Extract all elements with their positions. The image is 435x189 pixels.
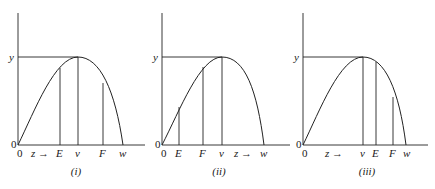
origin-label: 0 bbox=[17, 147, 23, 159]
y-label: y bbox=[293, 51, 299, 63]
caption-i: (i) bbox=[71, 165, 82, 178]
label-w: w bbox=[403, 147, 411, 159]
y-label: y bbox=[152, 51, 158, 63]
label-F: F bbox=[388, 147, 396, 159]
panel-iii: y 0 0 z → v E F w (iii) bbox=[293, 13, 428, 178]
three-panel-diagram: y 0 0 z → E v F w (i) y 0 0 E F v z → w … bbox=[0, 0, 435, 189]
curve bbox=[303, 57, 406, 145]
label-E: E bbox=[371, 147, 379, 159]
label-v: v bbox=[75, 147, 80, 159]
y-label: y bbox=[8, 51, 14, 63]
caption-ii: (ii) bbox=[212, 165, 226, 178]
label-E: E bbox=[55, 147, 63, 159]
label-w: w bbox=[260, 147, 268, 159]
z-arrow-label: z → bbox=[233, 147, 252, 159]
label-v: v bbox=[360, 147, 365, 159]
origin-label: 0 bbox=[161, 147, 167, 159]
z-arrow-label: z → bbox=[30, 147, 49, 159]
z-arrow-label: z → bbox=[324, 147, 343, 159]
caption-iii: (iii) bbox=[359, 165, 376, 178]
panel-ii: y 0 0 E F v z → w (ii) bbox=[152, 13, 290, 178]
label-v: v bbox=[219, 147, 224, 159]
curve bbox=[162, 57, 264, 145]
panel-i: y 0 0 z → E v F w (i) bbox=[8, 13, 145, 178]
label-F: F bbox=[98, 147, 106, 159]
label-E: E bbox=[174, 147, 182, 159]
label-F: F bbox=[198, 147, 206, 159]
curve bbox=[18, 57, 123, 145]
label-w: w bbox=[119, 147, 127, 159]
origin-label: 0 bbox=[302, 147, 308, 159]
